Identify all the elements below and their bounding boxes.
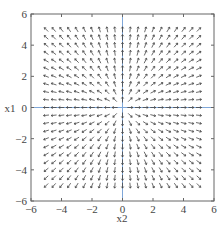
arrow: [105, 90, 109, 94]
arrow: [166, 152, 170, 156]
arrow: [143, 82, 147, 86]
arrow: [44, 183, 48, 187]
arrow: [174, 51, 178, 55]
arrow: [52, 35, 56, 39]
x-tick-label: −2: [86, 203, 98, 215]
arrow: [128, 98, 132, 102]
arrow: [82, 145, 86, 149]
arrow: [159, 67, 163, 71]
arrow: [60, 168, 64, 172]
arrow: [189, 35, 193, 39]
arrow: [60, 43, 64, 47]
y-axis-label: x1: [5, 102, 16, 114]
arrow: [136, 90, 140, 94]
arrow: [98, 82, 102, 86]
arrow: [166, 59, 170, 63]
arrow: [98, 129, 102, 133]
arrow: [113, 98, 117, 102]
arrow: [174, 160, 178, 164]
arrow: [182, 43, 186, 47]
y-tick-label: 4: [22, 39, 28, 51]
y-tick-label: −6: [15, 195, 27, 207]
arrow: [75, 59, 79, 63]
arrow: [90, 137, 94, 141]
x-tick-label: 6: [211, 203, 217, 215]
arrow: [113, 113, 117, 117]
quiver-plot: −6−4−20246−6−4−20246 x2 x1: [0, 0, 219, 226]
arrow: [44, 28, 48, 32]
x-tick-label: −4: [56, 203, 68, 215]
x-tick-label: 4: [181, 203, 187, 215]
arrow: [105, 121, 109, 125]
arrow: [128, 113, 132, 117]
arrow: [151, 137, 155, 141]
axis-ticks: −6−4−20246−6−4−20246: [15, 8, 217, 215]
arrow: [67, 160, 71, 164]
arrow: [90, 74, 94, 78]
x-tick-label: 2: [150, 203, 156, 215]
arrow: [189, 176, 193, 180]
y-tick-label: 6: [22, 8, 28, 20]
y-tick-label: −4: [15, 164, 27, 176]
y-tick-label: −2: [15, 133, 27, 145]
arrow: [151, 74, 155, 78]
arrow: [143, 129, 147, 133]
arrow: [136, 121, 140, 125]
y-tick-label: 2: [22, 70, 28, 82]
y-tick-label: 0: [22, 102, 28, 114]
arrow: [82, 67, 86, 71]
x-axis-label: x2: [117, 212, 128, 224]
arrow: [182, 168, 186, 172]
arrow: [67, 51, 71, 55]
arrow: [159, 145, 163, 149]
arrow: [75, 152, 79, 156]
arrow: [197, 183, 201, 187]
arrow: [197, 28, 201, 32]
arrow: [52, 176, 56, 180]
